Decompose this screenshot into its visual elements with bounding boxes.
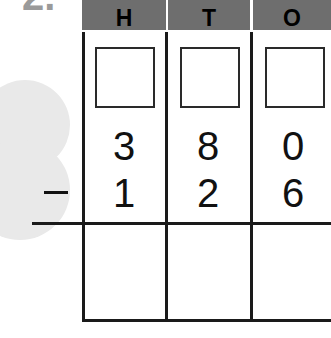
answer-cell-tens[interactable] bbox=[168, 226, 250, 319]
subtrahend-ones: 6 bbox=[251, 173, 331, 213]
regroup-box-tens[interactable] bbox=[180, 47, 240, 108]
regroup-box-hundreds[interactable] bbox=[95, 47, 155, 108]
minuend-ones: 0 bbox=[251, 126, 331, 166]
header-ones: O bbox=[253, 0, 331, 30]
answer-cell-hundreds[interactable] bbox=[85, 226, 165, 319]
bottom-rule bbox=[82, 319, 331, 322]
equals-rule bbox=[32, 222, 331, 225]
header-tens: T bbox=[168, 0, 250, 30]
answer-cell-ones[interactable] bbox=[253, 226, 331, 319]
subtrahend-hundreds: 1 bbox=[82, 173, 166, 213]
regroup-box-ones[interactable] bbox=[265, 47, 325, 108]
minus-sign bbox=[44, 191, 68, 194]
subtrahend-tens: 2 bbox=[166, 173, 250, 213]
decorative-cloud-shape bbox=[0, 80, 72, 240]
minuend-tens: 8 bbox=[166, 126, 250, 166]
header-hundreds: H bbox=[82, 0, 166, 30]
minuend-hundreds: 3 bbox=[82, 126, 166, 166]
question-number: 2. bbox=[22, 0, 55, 19]
